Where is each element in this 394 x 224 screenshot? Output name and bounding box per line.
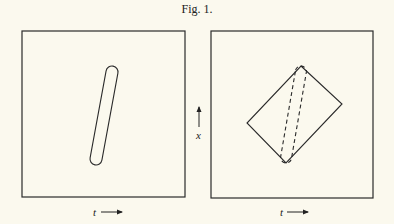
right-panel: x t [195, 31, 373, 218]
x-axis-label: x [195, 129, 201, 141]
left-panel: t [22, 31, 185, 218]
right-panel-frame [211, 31, 373, 198]
dashed-capsule [281, 66, 307, 163]
left-panel-frame [22, 31, 185, 197]
t-axis-label-right: t [280, 206, 284, 218]
solid-diamond [247, 66, 342, 163]
solid-capsule [90, 66, 118, 165]
figure-canvas: t x t [0, 0, 394, 224]
t-axis-label-left: t [93, 206, 97, 218]
